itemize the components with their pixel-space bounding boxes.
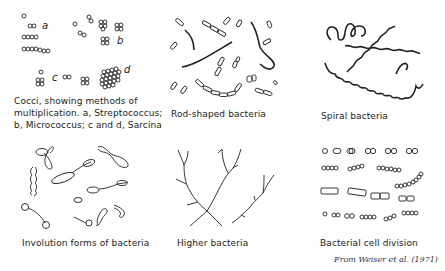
label-b: b — [117, 35, 123, 46]
panel-cocci: a b c d Cocci, showing methods of multip… — [0, 0, 150, 135]
label-c: c — [52, 72, 58, 83]
panel-spiral: Spiral bacteria — [295, 0, 445, 135]
caption-rods: Rod-shaped bacteria — [171, 108, 266, 120]
cell-division-illustration — [295, 135, 445, 271]
panel-rods: Rod-shaped bacteria — [150, 0, 300, 135]
panel-higher: Higher bacteria — [150, 135, 300, 271]
caption-division: Bacterial cell division — [320, 237, 418, 249]
caption-spiral: Spiral bacteria — [321, 110, 388, 122]
label-d: d — [124, 64, 130, 75]
caption-cocci: Cocci, showing methods of multiplication… — [14, 95, 162, 131]
caption-higher: Higher bacteria — [177, 237, 248, 249]
figure-credit: From Weiser et al. (1971) — [334, 255, 438, 264]
label-a: a — [42, 20, 48, 31]
higher-bacteria-illustration — [150, 135, 300, 271]
caption-involution: Involution forms of bacteria — [22, 237, 149, 249]
panel-division: Bacterial cell division — [295, 135, 445, 271]
involution-illustration — [0, 135, 150, 271]
panel-involution: Involution forms of bacteria — [0, 135, 150, 271]
